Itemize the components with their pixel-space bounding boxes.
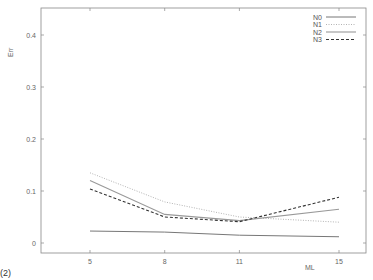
series-lines — [90, 173, 339, 237]
y-tick-label: 0.1 — [26, 188, 36, 195]
legend-label: N1 — [313, 21, 322, 28]
y-tick-label: 0 — [32, 240, 36, 247]
x-tick-label: 8 — [163, 258, 167, 265]
legend-label: N2 — [313, 29, 322, 36]
y-axis: 00.10.20.30.4 — [26, 32, 366, 247]
legend-label: N3 — [313, 36, 322, 43]
series-n3 — [90, 189, 339, 222]
y-tick-label: 0.3 — [26, 84, 36, 91]
plot-border — [41, 8, 366, 253]
x-tick-label: 5 — [88, 258, 92, 265]
legend: N0N1N2N3 — [313, 14, 356, 44]
line-chart: 00.10.20.30.4 581115 N0N1N2N3 ML Err — [0, 0, 373, 280]
figure-label: (2) — [0, 268, 11, 278]
series-n2 — [90, 181, 339, 221]
x-axis: 581115 — [88, 8, 343, 265]
y-tick-label: 0.2 — [26, 136, 36, 143]
legend-label: N0 — [313, 14, 322, 21]
plot-frame — [41, 8, 366, 253]
y-axis-label: Err — [7, 47, 14, 57]
x-tick-label: 15 — [335, 258, 343, 265]
x-tick-label: 11 — [236, 258, 243, 265]
y-tick-label: 0.4 — [26, 32, 36, 39]
x-axis-label: ML — [305, 264, 315, 271]
series-n0 — [90, 231, 339, 237]
